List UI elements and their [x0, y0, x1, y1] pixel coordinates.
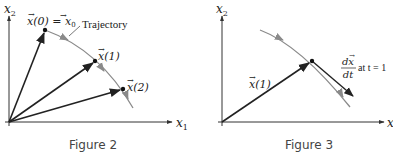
vec-mark-x0b: → — [60, 11, 67, 20]
figure-3-caption: Figure 3 — [285, 138, 333, 152]
x2-axis-label: x2 — [216, 2, 228, 18]
diagram-canvas: x2 x1 x(0) = x0 → → Trajectory x(1) → x(… — [0, 0, 393, 154]
vector-x2 — [9, 90, 120, 122]
vec-mark-x1: → — [98, 45, 105, 54]
figure-2: x2 x1 x(0) = x0 → → Trajectory x(1) → x(… — [4, 2, 188, 152]
vec-mark-x1: → — [249, 73, 256, 82]
derivative-denominator: dt — [343, 69, 354, 80]
vector-x1 — [222, 63, 309, 122]
point-x1 — [93, 59, 97, 63]
trajectory-curve — [45, 30, 133, 108]
derivative-label: dx → dt at t = 1 — [341, 52, 386, 80]
vec-mark-x0: → — [28, 10, 35, 19]
figure-2-caption: Figure 2 — [69, 138, 117, 152]
point-x0 — [43, 28, 47, 32]
trajectory-label: Trajectory — [82, 18, 128, 30]
vector-x1 — [9, 63, 93, 122]
trajectory-arrow-3 — [126, 94, 128, 99]
x-axis-label: x — [387, 116, 393, 130]
vec-mark-x2: → — [127, 76, 134, 85]
x1-axis-label: x1 — [176, 116, 188, 132]
x2-axis-label: x2 — [4, 2, 16, 18]
vector-x0 — [9, 33, 44, 122]
figure-3: x2 x x(1) → dx → dt at t = 1 Figure 3 — [216, 2, 393, 152]
point-x1 — [310, 59, 314, 63]
trajectory-curve — [260, 30, 350, 107]
point-x2 — [121, 87, 125, 91]
derivative-suffix: at t = 1 — [358, 62, 386, 73]
vec-mark-dx: → — [349, 52, 355, 60]
